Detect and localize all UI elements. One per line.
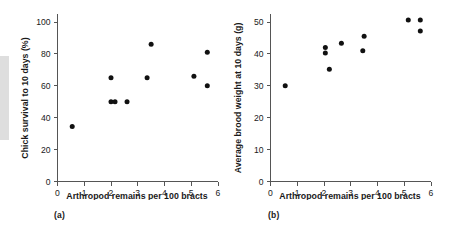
data-point xyxy=(205,83,210,88)
y-tick-label: 20 xyxy=(41,145,51,155)
data-point xyxy=(418,28,423,33)
y-tick-label: 50 xyxy=(254,17,264,27)
scatter-plot-b: 01020304050 0123456 Arthropod remains pe… xyxy=(228,0,457,200)
y-tick-label: 80 xyxy=(41,49,51,59)
y-tick-label: 0 xyxy=(46,177,51,187)
x-axis-title-a: Arthropod remains per 100 bracts xyxy=(66,191,207,200)
x-tick-label: 6 xyxy=(216,188,221,198)
data-point xyxy=(418,18,423,23)
y-axis-title-b: Average brood weight at 10 days (g) xyxy=(233,23,243,174)
data-point xyxy=(360,48,365,53)
y-ticks-b: 01020304050 xyxy=(254,17,271,187)
panel-b: 01020304050 0123456 Arthropod remains pe… xyxy=(228,0,457,235)
data-point xyxy=(323,45,328,50)
x-tick-label: 0 xyxy=(268,188,273,198)
y-tick-label: 30 xyxy=(254,81,264,91)
y-ticks-a: 020406080100 xyxy=(36,17,57,187)
y-tick-label: 40 xyxy=(41,113,51,123)
data-points-b xyxy=(283,18,423,89)
panel-a: 020406080100 0123456 Arthropod remains p… xyxy=(0,0,228,235)
data-point xyxy=(191,74,196,79)
data-point xyxy=(362,34,367,39)
y-tick-label: 40 xyxy=(254,49,264,59)
axes-b xyxy=(271,14,432,182)
data-point xyxy=(323,50,328,55)
y-tick-label: 60 xyxy=(41,81,51,91)
data-point xyxy=(145,75,150,80)
y-tick-label: 20 xyxy=(254,113,264,123)
panel-caption-b: (b) xyxy=(268,210,279,220)
x-axis-title-b: Arthropod remains per 100 bracts xyxy=(279,191,420,200)
data-point xyxy=(149,42,154,47)
data-point xyxy=(125,99,130,104)
data-point xyxy=(339,41,344,46)
data-point xyxy=(205,50,210,55)
figure-container: 020406080100 0123456 Arthropod remains p… xyxy=(0,0,457,235)
data-point xyxy=(327,67,332,72)
y-tick-label: 10 xyxy=(254,145,264,155)
x-tick-label: 0 xyxy=(55,188,60,198)
data-point xyxy=(406,18,411,23)
y-tick-label: 0 xyxy=(259,177,264,187)
y-tick-label: 100 xyxy=(36,17,51,27)
data-point xyxy=(283,83,288,88)
data-point xyxy=(113,99,118,104)
panel-caption-a: (a) xyxy=(54,210,65,220)
data-points-a xyxy=(70,42,210,129)
data-point xyxy=(70,124,75,129)
scatter-plot-a: 020406080100 0123456 Arthropod remains p… xyxy=(0,0,228,200)
data-point xyxy=(109,75,114,80)
y-axis-title-a: Chick survival to 10 days (%) xyxy=(20,37,30,158)
axes-a xyxy=(58,14,219,182)
x-tick-label: 6 xyxy=(429,188,434,198)
